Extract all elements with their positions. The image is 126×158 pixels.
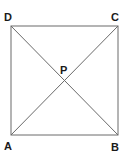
vertex-label-a: A bbox=[4, 140, 12, 152]
vertex-label-b: B bbox=[111, 141, 119, 153]
square-diagram: D C A B P bbox=[0, 0, 126, 158]
intersection-label-p: P bbox=[60, 64, 67, 76]
vertex-label-c: C bbox=[111, 11, 119, 23]
vertex-label-d: D bbox=[4, 11, 12, 23]
